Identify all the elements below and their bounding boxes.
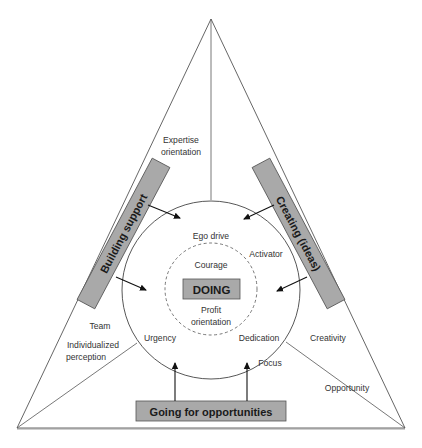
creating-ideas-label: Creating (ideas) [274, 194, 324, 273]
doing-label: DOING [193, 284, 231, 296]
label-expertise-line2: orientation [161, 147, 201, 157]
label-individualized-line1: Individualized [67, 340, 119, 350]
arrow-creating-upper [244, 205, 274, 219]
arrow-creating-lower [277, 277, 307, 291]
label-profit-line2: orientation [191, 317, 231, 327]
creating-ideas-box: Creating (ideas) [252, 158, 345, 309]
label-expertise-line1: Expertise [163, 135, 199, 145]
label-individualized-line2: perception [66, 352, 106, 362]
arrow-building-support-upper [148, 205, 180, 218]
label-creativity: Creativity [310, 333, 347, 343]
label-ego-drive: Ego drive [193, 231, 230, 241]
label-urgency: Urgency [144, 333, 177, 343]
label-team: Team [89, 321, 110, 331]
label-opportunity: Opportunity [325, 383, 370, 393]
arrow-building-support-lower [116, 277, 146, 290]
building-support-box: Building support [77, 158, 170, 309]
label-dedication: Dedication [239, 333, 280, 343]
going-for-opportunities-box: Going for opportunities [136, 401, 286, 421]
doing-diagram: Building support Creating (ideas) Going … [0, 0, 422, 448]
doing-box: DOING [183, 279, 240, 299]
label-profit-line1: Profit [201, 305, 222, 315]
label-courage: Courage [195, 260, 228, 270]
label-focus: Focus [258, 358, 281, 368]
going-for-opportunities-label: Going for opportunities [150, 406, 273, 418]
label-activator: Activator [249, 249, 283, 259]
